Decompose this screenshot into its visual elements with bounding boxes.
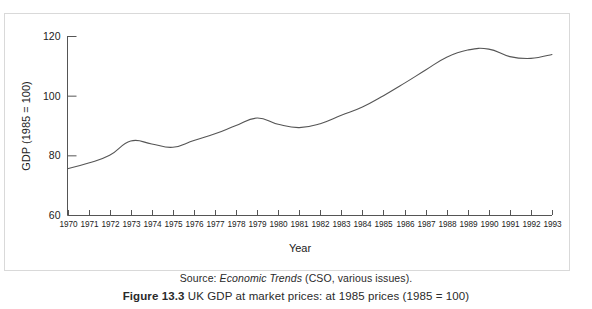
x-tick-label: 1987	[417, 220, 436, 229]
figure-number: Figure 13.3	[123, 290, 185, 302]
x-tick-label: 1985	[374, 220, 393, 229]
gdp-line-chart: 6080100120 19701971197219731974197519761…	[0, 0, 592, 270]
source-suffix: (CSO, various issues).	[302, 272, 412, 284]
x-tick-label: 1993	[543, 220, 562, 229]
source-publication: Economic Trends	[220, 272, 302, 284]
x-tick-label: 1981	[290, 220, 309, 229]
y-axis-ticks	[68, 37, 77, 216]
x-tick-label: 1986	[396, 220, 415, 229]
figure-page: 6080100120 19701971197219731974197519761…	[0, 0, 592, 309]
x-tick-label: 1992	[522, 220, 541, 229]
x-tick-label: 1972	[101, 220, 120, 229]
x-tick-label: 1989	[459, 220, 478, 229]
y-tick-label: 80	[49, 149, 61, 161]
x-tick-label: 1978	[227, 220, 246, 229]
x-tick-label: 1991	[501, 220, 520, 229]
y-tick-label: 120	[43, 30, 61, 42]
x-tick-label: 1977	[206, 220, 225, 229]
x-tick-label: 1975	[164, 220, 183, 229]
source-prefix: Source:	[180, 272, 220, 284]
x-tick-label: 1974	[143, 220, 162, 229]
source-line: Source: Economic Trends (CSO, various is…	[0, 272, 592, 284]
x-tick-label: 1973	[122, 220, 141, 229]
x-tick-label: 1980	[269, 220, 288, 229]
x-tick-label: 1970	[59, 220, 78, 229]
figure-caption: Figure 13.3 UK GDP at market prices: at …	[0, 290, 592, 302]
x-tick-label: 1988	[438, 220, 457, 229]
x-tick-label: 1990	[480, 220, 499, 229]
x-axis-tick-labels: 1970197119721973197419751976197719781979…	[59, 220, 562, 229]
x-tick-label: 1983	[332, 220, 351, 229]
x-tick-label: 1971	[80, 220, 99, 229]
x-tick-label: 1982	[311, 220, 330, 229]
figure-caption-text: UK GDP at market prices: at 1985 prices …	[188, 290, 469, 302]
gdp-series-line	[68, 48, 553, 168]
x-tick-label: 1979	[248, 220, 267, 229]
x-axis-title: Year	[289, 242, 312, 254]
y-tick-label: 100	[43, 90, 61, 102]
x-tick-label: 1984	[353, 220, 372, 229]
x-axis-ticks	[69, 210, 553, 215]
y-axis-title: GDP (1985 = 100)	[20, 81, 32, 170]
y-axis-tick-labels: 6080100120	[43, 30, 61, 221]
x-tick-label: 1976	[185, 220, 204, 229]
